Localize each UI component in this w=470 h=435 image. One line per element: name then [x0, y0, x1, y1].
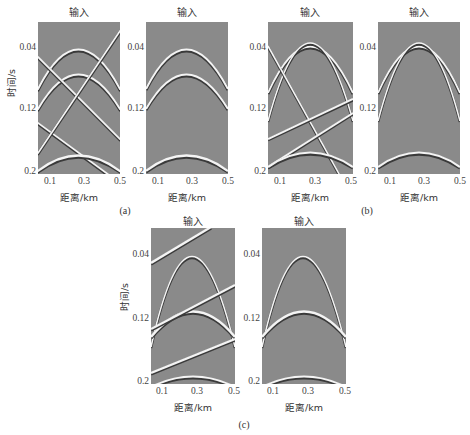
y-axis-label-c: 时间/s	[117, 272, 131, 322]
xtick-b2-03: 0.3	[414, 176, 434, 186]
caption-c: (c)	[229, 419, 259, 430]
xtick-c2-01: 0.1	[263, 386, 283, 396]
ytick-c2-012: 0.12	[230, 313, 260, 323]
xtick-a1-01: 0.1	[40, 176, 60, 186]
ytick-a1-004: 0.04	[6, 42, 36, 52]
ytick-c1-004: 0.04	[119, 249, 149, 259]
panel-c2-title: 输入	[259, 213, 349, 228]
ytick-c2-004: 0.04	[230, 249, 260, 259]
panel-b1-title: 输入	[265, 4, 355, 19]
seismic-panel-b2	[378, 22, 460, 174]
xtick-c1-05: 0.5	[224, 386, 244, 396]
ytick-a1-02: 0.2	[6, 166, 36, 176]
xtick-a2-03: 0.3	[182, 176, 202, 186]
xtick-a2-05: 0.5	[218, 176, 238, 186]
ytick-b2-012: 0.12	[346, 103, 376, 113]
seismic-panel-b1	[268, 22, 353, 174]
x-axis-label-a1: 距离/km	[34, 190, 124, 204]
ytick-b1-004: 0.04	[236, 42, 266, 52]
x-axis-label-b2: 距离/km	[374, 190, 464, 204]
panel-a2-title: 输入	[142, 4, 232, 19]
ytick-a2-004: 0.04	[114, 42, 144, 52]
x-axis-label-c1: 距离/km	[148, 400, 238, 414]
seismic-panel-a2	[146, 22, 228, 174]
xtick-b1-03: 0.3	[305, 176, 325, 186]
x-axis-label-a2: 距离/km	[142, 190, 232, 204]
ytick-b2-02: 0.2	[346, 166, 376, 176]
ytick-c2-02: 0.2	[230, 376, 260, 386]
xtick-c1-01: 0.1	[152, 386, 172, 396]
seismic-panel-c2	[262, 228, 346, 384]
ytick-b2-004: 0.04	[346, 42, 376, 52]
xtick-b2-05: 0.5	[450, 176, 470, 186]
xtick-c2-03: 0.3	[298, 386, 318, 396]
panel-c1-title: 输入	[148, 213, 238, 228]
ytick-c1-02: 0.2	[119, 376, 149, 386]
panel-b2-title: 输入	[374, 4, 464, 19]
xtick-c2-05: 0.5	[335, 386, 355, 396]
ytick-a2-02: 0.2	[114, 166, 144, 176]
x-axis-label-c2: 距离/km	[259, 400, 349, 414]
xtick-b2-01: 0.1	[380, 176, 400, 186]
ytick-b1-02: 0.2	[236, 166, 266, 176]
xtick-b1-05: 0.5	[341, 176, 361, 186]
x-axis-label-b1: 距离/km	[265, 190, 355, 204]
ytick-b1-012: 0.12	[236, 103, 266, 113]
y-axis-label-a: 时间/s	[4, 58, 18, 108]
caption-b: (b)	[352, 205, 382, 216]
xtick-c1-03: 0.3	[187, 386, 207, 396]
seismic-panel-c1	[151, 228, 235, 384]
xtick-a2-01: 0.1	[148, 176, 168, 186]
xtick-b1-01: 0.1	[270, 176, 290, 186]
seismic-panel-a1	[38, 22, 120, 174]
xtick-a1-05: 0.5	[110, 176, 130, 186]
xtick-a1-03: 0.3	[74, 176, 94, 186]
caption-a: (a)	[110, 205, 140, 216]
panel-a1-title: 输入	[34, 4, 124, 19]
ytick-a2-012: 0.12	[114, 103, 144, 113]
